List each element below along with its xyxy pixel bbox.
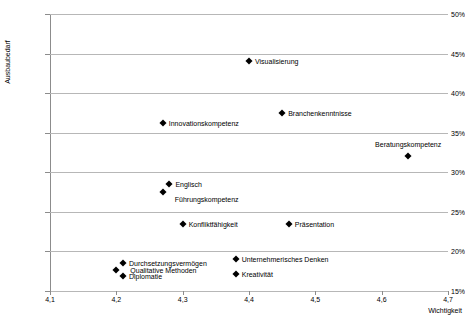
x-tick-mark <box>183 291 184 295</box>
y-tick-mark <box>45 14 50 15</box>
data-point-label: Konfliktfähigkeit <box>189 220 238 227</box>
data-point-label: Unternehmerisches Denken <box>242 256 329 263</box>
y-tick-label: 50% <box>423 11 465 18</box>
y-tick-mark <box>45 54 50 55</box>
gridline-horizontal <box>50 133 448 134</box>
x-tick-mark <box>448 291 449 295</box>
data-point-label: Englisch <box>175 181 201 188</box>
data-point-label: Diplomatie <box>129 272 162 279</box>
data-point-label: Präsentation <box>295 220 334 227</box>
x-tick-label: 4,7 <box>443 296 453 303</box>
x-tick-label: 4,2 <box>111 296 121 303</box>
data-point-label: Beratungskompetenz <box>375 141 441 148</box>
y-tick-mark <box>45 212 50 213</box>
gridline-horizontal <box>50 172 448 173</box>
y-tick-label: 45% <box>423 50 465 57</box>
x-tick-label: 4,1 <box>45 296 55 303</box>
x-tick-label: 4,3 <box>178 296 188 303</box>
gridline-horizontal <box>50 212 448 213</box>
data-point-label: Führungskompetenz <box>175 196 239 203</box>
scatter-chart-figure: Ausbaubedarf Wichtigkeit 50%45%40%35%30%… <box>0 0 465 329</box>
x-tick-label: 4,6 <box>377 296 387 303</box>
y-tick-mark <box>45 93 50 94</box>
x-tick-mark <box>382 291 383 295</box>
x-axis-title: Wichtigkeit <box>428 307 462 314</box>
y-tick-mark <box>45 172 50 173</box>
x-tick-label: 4,4 <box>244 296 254 303</box>
x-tick-label: 4,5 <box>310 296 320 303</box>
y-tick-label: 30% <box>423 169 465 176</box>
gridline-horizontal <box>50 93 448 94</box>
gridline-horizontal <box>50 251 448 252</box>
x-tick-mark <box>249 291 250 295</box>
data-point-label: Innovationskompetenz <box>169 120 239 127</box>
data-point-label: Branchenkenntnisse <box>288 109 351 116</box>
y-tick-label: 20% <box>423 248 465 255</box>
x-tick-mark <box>50 291 51 295</box>
y-tick-label: 35% <box>423 129 465 136</box>
x-tick-mark <box>315 291 316 295</box>
gridline-horizontal <box>50 14 448 15</box>
x-tick-mark <box>116 291 117 295</box>
y-axis-title: Ausbaubedarf <box>0 0 14 150</box>
data-point-label: Visualisierung <box>255 58 298 65</box>
gridline-horizontal <box>50 54 448 55</box>
y-tick-label: 25% <box>423 208 465 215</box>
data-point-label: Kreativität <box>242 270 273 277</box>
y-tick-mark <box>45 133 50 134</box>
y-axis-title-label: Ausbaubedarf <box>4 40 11 84</box>
y-tick-mark <box>45 251 50 252</box>
y-tick-label: 40% <box>423 90 465 97</box>
y-tick-label: 15% <box>423 288 465 295</box>
plot-area <box>50 14 448 291</box>
